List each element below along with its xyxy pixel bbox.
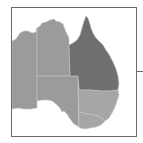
australia-map: Western Australia Northern Territory Sou…	[0, 0, 143, 143]
state-western-australia[interactable]: Western Australia	[12, 28, 37, 109]
